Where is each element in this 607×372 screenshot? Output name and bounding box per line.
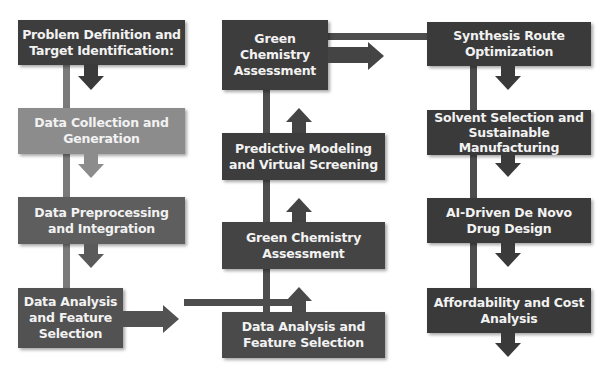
step-label: Synthesis Route Optimization	[431, 28, 587, 60]
down-arrow-icon	[495, 163, 521, 177]
step-label: Affordability and Cost Analysis	[431, 295, 587, 327]
step-data-analysis-middle: Data Analysis and Feature Selection	[222, 312, 385, 358]
step-label: Data Analysis and Feature Selection	[226, 319, 381, 351]
middle-vertical-connector	[263, 88, 270, 314]
left-vertical-connector	[63, 64, 70, 290]
step-label: Data Preprocessing and Integration	[22, 205, 181, 237]
step-label: Green Chemistry Assessment	[226, 230, 381, 262]
down-arrow-icon	[84, 64, 98, 76]
step-label: AI-Driven De Novo Drug Design	[431, 205, 587, 237]
down-arrow-icon	[78, 254, 104, 268]
bottom-horizontal-connector	[184, 299, 294, 306]
step-green-chemistry-assessment-top: Green Chemistry Assessment	[222, 20, 328, 90]
right-arrow-icon	[368, 42, 384, 70]
step-label: Green Chemistry Assessment	[226, 31, 324, 79]
step-problem-definition: Problem Definition and Target Identifica…	[18, 20, 185, 65]
right-arrow-icon	[163, 305, 179, 333]
step-data-collection: Data Collection and Generation	[18, 108, 185, 154]
up-arrow-icon	[286, 198, 312, 212]
step-predictive-modeling: Predictive Modeling and Virtual Screenin…	[222, 133, 385, 180]
down-arrow-icon	[495, 76, 521, 90]
step-solvent-selection: Solvent Selection and Sustainable Manufa…	[427, 110, 591, 155]
down-arrow-icon	[495, 343, 521, 357]
down-arrow-icon	[84, 154, 98, 164]
down-arrow-icon	[501, 66, 515, 76]
up-arrow-icon	[292, 212, 306, 222]
step-ai-driven-design: AI-Driven De Novo Drug Design	[427, 198, 591, 243]
down-arrow-icon	[501, 243, 515, 253]
down-arrow-icon	[84, 244, 98, 254]
up-arrow-icon	[286, 287, 312, 301]
step-label: Problem Definition and Target Identifica…	[22, 27, 181, 59]
down-arrow-icon	[501, 155, 515, 163]
top-horizontal-connector	[328, 33, 428, 40]
down-arrow-icon	[495, 253, 521, 267]
step-label: Solvent Selection and Sustainable Manufa…	[431, 110, 587, 155]
right-arrow-icon	[123, 311, 163, 327]
right-arrow-icon	[328, 47, 368, 63]
step-label: Data Collection and Generation	[22, 115, 181, 147]
step-green-chemistry-assessment-middle: Green Chemistry Assessment	[222, 222, 385, 269]
step-data-analysis-left: Data Analysis and Feature Selection	[18, 288, 123, 348]
right-vertical-connector	[470, 64, 477, 290]
step-synthesis-route: Synthesis Route Optimization	[427, 22, 591, 66]
step-label: Data Analysis and Feature Selection	[22, 294, 119, 342]
up-arrow-icon	[292, 301, 306, 312]
step-data-preprocessing: Data Preprocessing and Integration	[18, 197, 185, 244]
step-affordability: Affordability and Cost Analysis	[427, 288, 591, 333]
up-arrow-icon	[286, 108, 312, 122]
up-arrow-icon	[292, 122, 306, 133]
down-arrow-icon	[78, 76, 104, 90]
step-label: Predictive Modeling and Virtual Screenin…	[226, 141, 381, 173]
down-arrow-icon	[78, 164, 104, 178]
down-arrow-icon	[501, 333, 515, 343]
